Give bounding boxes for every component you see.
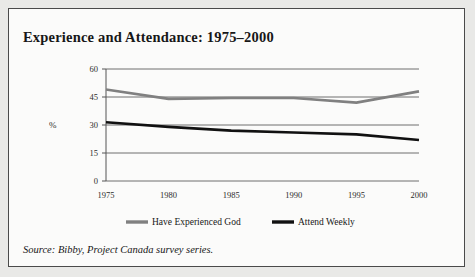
x-tick-label: 1995: [348, 190, 365, 200]
x-tick-label: 1980: [160, 190, 177, 200]
y-axis-label: %: [49, 120, 57, 130]
y-tick-marks-group: [102, 69, 106, 181]
figure-card: Experience and Attendance: 1975–2000 015…: [8, 8, 465, 267]
x-tick-label: 1975: [98, 190, 115, 200]
x-tick-label: 2000: [411, 190, 428, 200]
x-tick-label: 1985: [223, 190, 240, 200]
y-tick-label: 15: [90, 148, 99, 158]
y-tick-labels-group: 015304560: [90, 64, 99, 186]
x-tick-labels-group: 197519801985199019952000: [98, 190, 428, 200]
x-tick-label: 1990: [285, 190, 302, 200]
series-line: [106, 90, 419, 103]
legend-label: Attend Weekly: [298, 217, 355, 227]
chart-legend: Have Experienced GodAttend Weekly: [126, 217, 355, 227]
y-tick-label: 0: [94, 176, 98, 186]
legend-label: Have Experienced God: [152, 217, 241, 227]
y-tick-label: 60: [90, 64, 99, 74]
y-tick-label: 30: [90, 120, 99, 130]
chart-plot-area: 015304560 197519801985199019952000 % Hav…: [9, 9, 466, 268]
y-tick-label: 45: [90, 92, 99, 102]
line-chart-svg: 015304560 197519801985199019952000 % Hav…: [9, 9, 466, 268]
source-note: Source: Bibby, Project Canada survey ser…: [23, 244, 213, 255]
